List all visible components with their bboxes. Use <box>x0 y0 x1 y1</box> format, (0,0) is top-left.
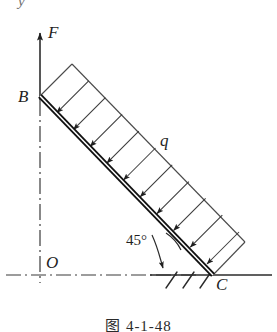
load-arrow <box>90 114 122 146</box>
origin-label: O <box>46 253 58 272</box>
force-axis-label: F <box>47 23 59 42</box>
load-arrow <box>174 198 206 230</box>
point-c-label: C <box>216 275 228 294</box>
load-arrow <box>207 232 239 264</box>
load-arrow <box>124 148 156 180</box>
angle-label: 45° <box>126 232 147 248</box>
envelope-end-c <box>213 242 245 275</box>
load-arrow <box>157 182 189 214</box>
distributed-load-label: q <box>160 131 169 150</box>
load-arrow <box>73 98 105 130</box>
distributed-load-arrows <box>57 81 239 264</box>
point-b-label: B <box>18 87 29 106</box>
corner-fragment-label: y <box>18 0 25 10</box>
envelope-end-b <box>40 64 72 96</box>
mechanics-diagram: F B C O q 45° <box>0 0 277 332</box>
load-arrow <box>140 165 172 197</box>
load-arrow <box>57 81 89 113</box>
figure-root: y <box>0 0 277 332</box>
figure-caption: 图 4-1-48 <box>0 318 277 332</box>
beam-inner-gap <box>40 96 213 275</box>
load-arrow <box>190 215 222 247</box>
beam-BC <box>40 96 213 275</box>
angle-leader <box>152 235 163 268</box>
load-arrow <box>107 131 139 163</box>
